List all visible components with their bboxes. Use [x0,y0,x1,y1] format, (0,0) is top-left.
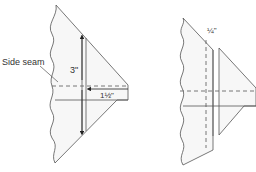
seam-allowance-label: ¼" [207,26,217,35]
right-figure: ¼" [180,18,256,165]
fabric-shape [50,5,128,163]
width-label: 1½" [100,91,114,100]
side-seam-label: Side seam [2,57,45,67]
left-figure: Side seam 3" 1½" [2,5,128,163]
diagram-canvas: Side seam 3" 1½" ¼" [0,0,256,172]
fabric-body [180,18,213,165]
height-label: 3" [70,65,78,75]
cut-triangle [219,48,256,135]
